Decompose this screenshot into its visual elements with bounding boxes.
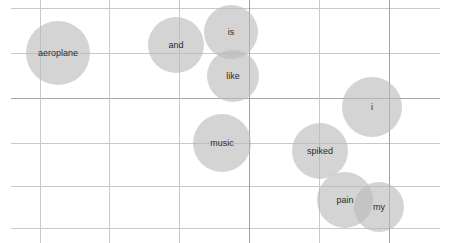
bubble-point-label: like bbox=[226, 72, 240, 81]
bubble-point-label: pain bbox=[336, 196, 353, 205]
bubble-point-label: and bbox=[168, 41, 183, 50]
bubble-point-label: spiked bbox=[307, 147, 333, 156]
chart-point-labels: aeroplaneandislikeimusicspikedpainmy bbox=[0, 0, 451, 243]
bubble-point-label: is bbox=[228, 28, 235, 37]
bubble-chart: aeroplaneandislikeimusicspikedpainmy bbox=[0, 0, 451, 243]
bubble-point-label: i bbox=[371, 103, 373, 112]
bubble-point-label: my bbox=[373, 203, 385, 212]
bubble-point-label: aeroplane bbox=[38, 49, 78, 58]
bubble-point-label: music bbox=[210, 139, 234, 148]
